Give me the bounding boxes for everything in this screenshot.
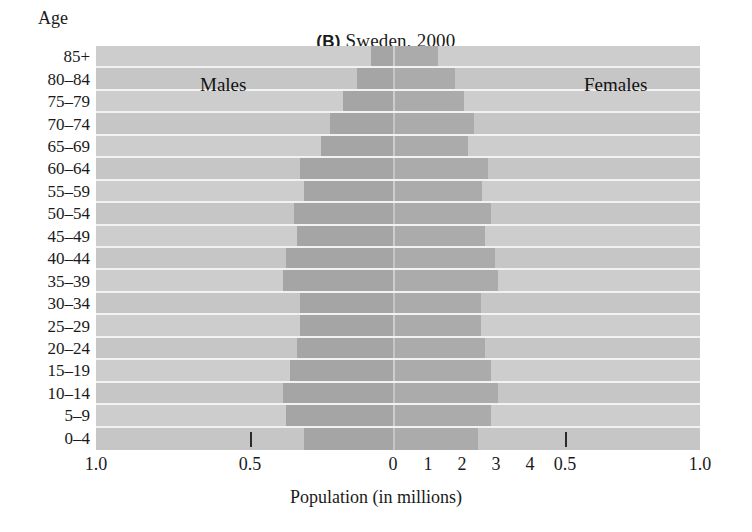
pyramid-row [96,181,700,203]
series-label-females: Females [584,74,647,96]
male-bar [297,338,393,358]
x-tick-label: 2 [458,454,467,475]
male-bar [286,405,393,425]
age-tick-label: 10–14 [4,385,90,402]
female-bar [395,315,481,335]
age-tick-label: 0–4 [4,430,90,447]
x-tick-label: 0 [389,454,398,475]
x-tick-mark [565,432,567,447]
age-tick-label: 25–29 [4,318,90,335]
male-bar [290,360,393,380]
male-bar [300,315,393,335]
pyramid-row [96,136,700,158]
male-bar [330,113,393,133]
female-bar [395,91,464,111]
pyramid-row [96,293,700,315]
age-tick-label: 5–9 [4,407,90,424]
age-tick-label: 55–59 [4,183,90,200]
pyramid-row [96,315,700,337]
age-tick-label: 45–49 [4,228,90,245]
age-tick-label: 30–34 [4,295,90,312]
pyramid-row [96,158,700,180]
female-bar [395,113,474,133]
female-bar [395,428,478,450]
female-bar [395,68,455,88]
series-label-males: Males [200,74,246,96]
age-tick-label: 40–44 [4,250,90,267]
age-tick-label: 85+ [4,48,90,65]
pyramid-row [96,46,700,68]
population-pyramid-figure: (B) Sweden, 2000 Age 85+80–8475–7970–746… [0,0,752,532]
x-tick-label: 1.0 [689,454,712,475]
male-bar [321,136,393,156]
x-tick-label: 1.0 [85,454,108,475]
pyramid-row [96,113,700,135]
female-bar [395,383,498,403]
x-tick-label: 3 [492,454,501,475]
male-bar [283,383,393,403]
female-bar [395,270,498,290]
pyramid-row [96,338,700,360]
pyramid-row [96,383,700,405]
pyramid-row [96,428,700,450]
age-tick-label: 70–74 [4,116,90,133]
pyramid-row [96,226,700,248]
male-bar [300,158,393,178]
female-bar [395,226,485,246]
plot-area [96,46,700,450]
male-bar [300,293,393,313]
male-bar [371,46,393,66]
x-tick-mark [250,432,252,447]
age-tick-label: 35–39 [4,273,90,290]
pyramid-row [96,405,700,427]
age-tick-label: 60–64 [4,160,90,177]
age-tick-label: 65–69 [4,138,90,155]
x-tick-label: 0.5 [239,454,262,475]
pyramid-row [96,270,700,292]
female-bar [395,46,438,66]
male-bar [357,68,393,88]
age-tick-label: 80–84 [4,71,90,88]
female-bar [395,405,491,425]
male-bar [297,226,393,246]
female-bar [395,181,482,201]
pyramid-row [96,248,700,270]
female-bar [395,136,468,156]
age-tick-label: 20–24 [4,340,90,357]
male-bar [343,91,393,111]
female-bar [395,203,491,223]
female-bar [395,158,488,178]
x-axis-title: Population (in millions) [0,487,752,508]
male-bar [294,203,393,223]
male-bar [286,248,393,268]
female-bar [395,338,485,358]
x-tick-label: 1 [424,454,433,475]
male-bar [304,181,393,201]
male-bar [283,270,393,290]
pyramid-row [96,360,700,382]
female-bar [395,293,481,313]
age-axis-labels: 85+80–8475–7970–7465–6960–6455–5950–5445… [0,46,90,450]
x-tick-label: 0.5 [554,454,577,475]
x-axis: 1.00.5012340.51.0 [0,450,752,490]
x-tick-label: 4 [526,454,535,475]
age-axis-header: Age [38,8,68,29]
age-tick-label: 75–79 [4,93,90,110]
female-bar [395,360,491,380]
age-tick-label: 15–19 [4,362,90,379]
female-bar [395,248,495,268]
pyramid-row [96,203,700,225]
male-bar [304,428,393,450]
age-tick-label: 50–54 [4,205,90,222]
